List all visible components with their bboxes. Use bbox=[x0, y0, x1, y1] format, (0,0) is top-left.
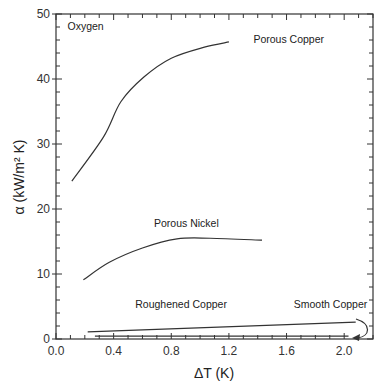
series-group bbox=[72, 42, 356, 336]
annotation-smooth-copper: Smooth Copper bbox=[294, 298, 368, 310]
x-tick-label: 0.4 bbox=[105, 344, 122, 358]
ticks bbox=[52, 14, 373, 339]
plot-frame bbox=[56, 14, 373, 339]
annotations: OxygenPorous CopperPorous NickelRoughene… bbox=[68, 20, 368, 310]
arrowhead-icon bbox=[352, 334, 360, 341]
x-axis-title: ΔT (K) bbox=[194, 365, 234, 381]
axes bbox=[56, 14, 373, 339]
series-porous-copper bbox=[72, 42, 229, 181]
annotation-porous-nickel: Porous Nickel bbox=[154, 217, 219, 229]
y-axis-title: α (kW/m² K) bbox=[11, 140, 27, 215]
x-tick-label: 0.0 bbox=[48, 344, 65, 358]
y-tick-label: 30 bbox=[37, 137, 51, 151]
x-tick-label: 2.0 bbox=[336, 344, 353, 358]
y-tick-label: 20 bbox=[37, 202, 51, 216]
y-tick-label: 0 bbox=[43, 332, 50, 346]
x-tick-label: 1.6 bbox=[278, 344, 295, 358]
x-tick-label: 0.8 bbox=[163, 344, 180, 358]
annotation-porous-copper: Porous Copper bbox=[253, 33, 324, 45]
y-tick-label: 10 bbox=[37, 267, 51, 281]
y-tick-label: 40 bbox=[37, 72, 51, 86]
annotation-roughened-copper: Roughened Copper bbox=[135, 298, 227, 310]
x-tick-label: 1.2 bbox=[221, 344, 238, 358]
annotation-oxygen: Oxygen bbox=[68, 20, 104, 32]
y-tick-label: 50 bbox=[37, 7, 51, 21]
series-porous-nickel bbox=[83, 238, 262, 280]
chart: 0.00.40.81.21.62.001020304050 OxygenPoro… bbox=[0, 0, 385, 392]
series-roughened-copper bbox=[88, 322, 356, 332]
